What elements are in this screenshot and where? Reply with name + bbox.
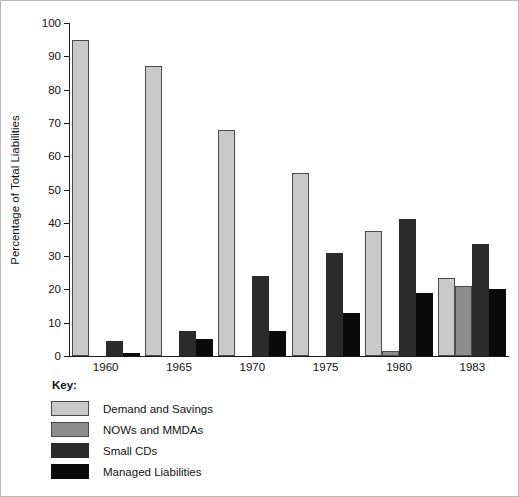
y-axis-tick-mark bbox=[64, 256, 69, 257]
bar-group bbox=[438, 23, 506, 356]
y-axis-tick-label: 10 bbox=[48, 317, 61, 329]
y-axis-tick-mark bbox=[64, 289, 69, 290]
y-axis-tick-label: 90 bbox=[48, 50, 61, 62]
legend-item: Demand and Savings bbox=[51, 398, 213, 419]
legend-rows: Demand and SavingsNOWs and MMDAsSmall CD… bbox=[51, 398, 213, 482]
y-axis-tick-label: 60 bbox=[48, 150, 61, 162]
y-axis-tick-mark bbox=[64, 156, 69, 157]
y-axis-tick-mark bbox=[64, 323, 69, 324]
y-axis-line bbox=[69, 23, 70, 357]
legend-item: Small CDs bbox=[51, 440, 213, 461]
bar-1970-series-0 bbox=[218, 130, 235, 356]
legend-item: NOWs and MMDAs bbox=[51, 419, 213, 440]
bar-group bbox=[292, 23, 360, 356]
x-axis-line bbox=[69, 356, 509, 357]
bar-1980-series-3 bbox=[416, 293, 433, 356]
bar-1975-series-0 bbox=[292, 173, 309, 356]
bar-group bbox=[365, 23, 433, 356]
legend-swatch bbox=[51, 443, 89, 458]
y-axis-tick-label: 30 bbox=[48, 250, 61, 262]
bar-1970-series-2 bbox=[252, 276, 269, 356]
bar-1983-series-1 bbox=[455, 286, 472, 356]
x-axis-label-1975: 1975 bbox=[313, 361, 339, 373]
bar-1960-series-0 bbox=[72, 40, 89, 356]
bar-1965-series-2 bbox=[179, 331, 196, 356]
x-axis-label-1983: 1983 bbox=[460, 361, 486, 373]
bar-1983-series-3 bbox=[489, 289, 506, 356]
bar-1983-series-0 bbox=[438, 278, 455, 356]
legend-label: NOWs and MMDAs bbox=[103, 424, 203, 436]
bar-1965-series-0 bbox=[145, 66, 162, 356]
y-axis-tick-mark bbox=[64, 190, 69, 191]
y-axis-tick-mark bbox=[64, 356, 69, 357]
x-axis-label-1965: 1965 bbox=[166, 361, 192, 373]
bar-group bbox=[72, 23, 140, 356]
bar-1975-series-2 bbox=[326, 253, 343, 356]
y-axis-tick-label: 100 bbox=[42, 17, 61, 29]
y-axis-tick-label: 20 bbox=[48, 283, 61, 295]
legend-swatch bbox=[51, 464, 89, 479]
plot-area: 0102030405060708090100 bbox=[69, 23, 509, 357]
chart-figure: Percentage of Total Liabilities 01020304… bbox=[0, 0, 519, 497]
legend-label: Managed Liabilities bbox=[103, 466, 201, 478]
bar-1980-series-0 bbox=[365, 231, 382, 356]
y-axis-tick-mark bbox=[64, 123, 69, 124]
legend-swatch bbox=[51, 422, 89, 437]
bar-group bbox=[218, 23, 286, 356]
y-axis-tick-mark bbox=[64, 23, 69, 24]
y-axis-tick-label: 70 bbox=[48, 117, 61, 129]
bar-1983-series-2 bbox=[472, 244, 489, 356]
bar-group bbox=[145, 23, 213, 356]
bar-1965-series-3 bbox=[196, 339, 213, 356]
legend-label: Demand and Savings bbox=[103, 403, 213, 415]
y-axis-tick-mark bbox=[64, 56, 69, 57]
bar-1960-series-2 bbox=[106, 341, 123, 356]
chart-legend: Key: Demand and SavingsNOWs and MMDAsSma… bbox=[51, 379, 213, 482]
y-axis-tick-label: 80 bbox=[48, 84, 61, 96]
legend-swatch bbox=[51, 401, 89, 416]
legend-title: Key: bbox=[52, 379, 213, 391]
x-axis-label-1960: 1960 bbox=[93, 361, 119, 373]
y-axis-tick-label: 50 bbox=[48, 184, 61, 196]
y-axis-tick-label: 40 bbox=[48, 217, 61, 229]
y-axis-tick-mark bbox=[64, 90, 69, 91]
bar-1960-series-3 bbox=[123, 353, 140, 356]
legend-item: Managed Liabilities bbox=[51, 461, 213, 482]
x-axis-label-1970: 1970 bbox=[240, 361, 266, 373]
bar-1975-series-3 bbox=[343, 313, 360, 356]
bar-1980-series-1 bbox=[382, 351, 399, 356]
y-axis-title-text: Percentage of Total Liabilities bbox=[9, 115, 21, 264]
bar-1980-series-2 bbox=[399, 219, 416, 356]
legend-label: Small CDs bbox=[103, 445, 157, 457]
y-axis-tick-mark bbox=[64, 223, 69, 224]
y-axis-title: Percentage of Total Liabilities bbox=[7, 23, 23, 357]
bar-1970-series-3 bbox=[269, 331, 286, 356]
x-axis-label-1980: 1980 bbox=[386, 361, 412, 373]
y-axis-tick-label: 0 bbox=[55, 350, 61, 362]
